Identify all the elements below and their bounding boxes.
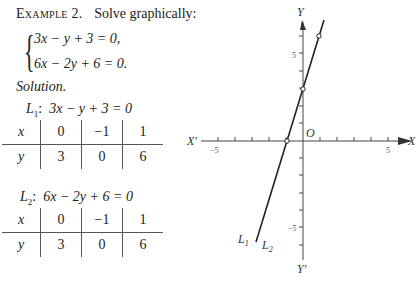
y-axis-label: Y [297,5,305,19]
point-neg1-0 [285,139,289,143]
x-axis-neg-label: X′ [186,134,197,148]
tick-label-x-pos5: 5 [386,146,390,155]
y-axis-neg-label: Y′ [297,262,307,276]
point-1-6 [317,34,321,38]
tick-label-y-neg5: −5 [288,224,297,233]
origin-label: O [306,126,315,140]
axes [201,22,410,260]
line-label-l1: L1 [237,232,249,248]
x-axis-label: X [407,134,416,148]
graph: Y Y′ X X′ O −5 5 5 −5 L1 L2 [0,0,420,284]
point-0-3 [301,87,305,91]
tick-label-x-neg5: −5 [210,146,219,155]
tick-label-y-pos5: 5 [292,51,296,60]
y-axis-arrow-icon [300,20,306,30]
line-label-l2: L2 [261,238,273,254]
